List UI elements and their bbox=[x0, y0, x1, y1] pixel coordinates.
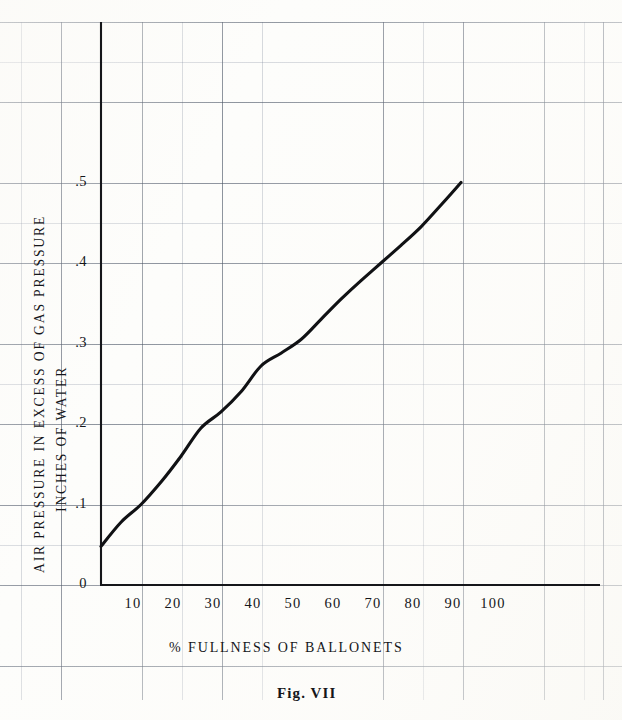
x-tick-label-100: 100 bbox=[473, 595, 513, 612]
x-tick-label-60: 60 bbox=[313, 595, 353, 612]
x-tick-label-90: 90 bbox=[433, 595, 473, 612]
y-axis-title-line1: AIR PRESSURE IN EXCESS OF GAS PRESSURE bbox=[32, 215, 48, 573]
figure-caption: Fig. VII bbox=[277, 685, 336, 702]
x-tick-label-80: 80 bbox=[393, 595, 433, 612]
y-tick-label-03: .3 bbox=[57, 334, 87, 351]
y-axis-title-line2: INCHES OF WATER bbox=[54, 366, 70, 512]
x-axis-title: % FULLNESS OF BALLONETS bbox=[169, 640, 404, 656]
y-tick-label-0: 0 bbox=[57, 575, 87, 592]
figure-page: .5 .4 .3 .2 .1 0 10 20 30 40 50 60 70 80… bbox=[0, 0, 622, 720]
x-tick-label-20: 20 bbox=[153, 595, 193, 612]
x-tick-label-30: 30 bbox=[193, 595, 233, 612]
y-tick-label-05: .5 bbox=[57, 173, 87, 190]
data-curve bbox=[101, 183, 461, 547]
plot-area bbox=[0, 0, 622, 720]
y-tick-label-04: .4 bbox=[57, 253, 87, 270]
x-tick-label-70: 70 bbox=[353, 595, 393, 612]
x-tick-label-40: 40 bbox=[233, 595, 273, 612]
x-tick-label-10: 10 bbox=[113, 595, 153, 612]
x-tick-label-50: 50 bbox=[273, 595, 313, 612]
